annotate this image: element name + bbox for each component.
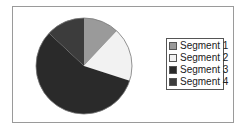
- legend-swatch: [169, 66, 177, 74]
- legend: Segment 1 Segment 2 Segment 3 Segment 4: [166, 38, 224, 90]
- legend-swatch: [169, 54, 177, 62]
- legend-label: Segment 3: [180, 64, 228, 76]
- legend-item-segment-1: Segment 1: [169, 40, 221, 52]
- legend-swatch: [169, 78, 177, 86]
- legend-item-segment-4: Segment 4: [169, 76, 221, 88]
- legend-swatch: [169, 42, 177, 50]
- legend-item-segment-3: Segment 3: [169, 64, 221, 76]
- pie-chart: [34, 16, 134, 116]
- legend-label: Segment 1: [180, 40, 228, 52]
- legend-label: Segment 2: [180, 52, 228, 64]
- legend-label: Segment 4: [180, 76, 228, 88]
- pie-slices: [36, 18, 132, 114]
- legend-item-segment-2: Segment 2: [169, 52, 221, 64]
